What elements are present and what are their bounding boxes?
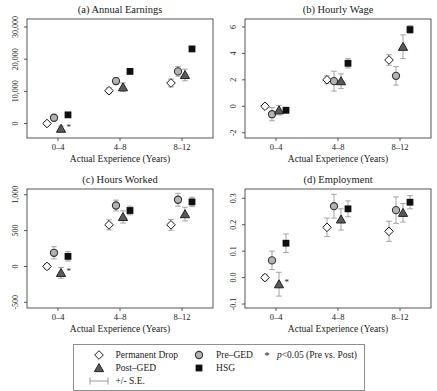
post-ged-data-point — [118, 213, 127, 221]
x-axis-tick-label: 8–12 — [174, 312, 191, 322]
x-axis-tick-label: 0–4 — [52, 142, 66, 152]
legend-item-post-ged: Post–GED — [88, 361, 179, 374]
triangle-marker-icon — [88, 362, 110, 374]
pre-ged-data-point — [330, 203, 337, 210]
legend-column-1: Permanent Drop Post–GED +/- S.E. — [88, 348, 179, 387]
legend-item-hsg: HSG — [188, 361, 253, 374]
legend-label: Permanent Drop — [116, 350, 179, 360]
x-axis-label: Actual Experience (Years) — [70, 154, 170, 165]
post-ged-data-point — [274, 106, 283, 114]
legend-label: Post–GED — [116, 363, 157, 373]
panel-hourly-wage: (b) Hourly Wage-202460–44–88–12Actual Ex… — [218, 2, 436, 170]
x-axis-tick-label: 4–8 — [332, 142, 345, 152]
x-axis-tick-label: 4–8 — [114, 312, 127, 322]
pre-ged-data-point — [50, 114, 57, 121]
y-axis-tick-label: 20,000 — [11, 48, 20, 70]
legend: Permanent Drop Post–GED +/- S.E. Pre–GED… — [73, 344, 365, 391]
y-axis-tick-label: 6 — [229, 25, 238, 29]
permanent-drop-data-point — [167, 221, 176, 230]
y-axis-tick-label: 2 — [229, 78, 238, 82]
chart-svg: (a) Annual Earnings010,00020,00030,0000–… — [0, 2, 218, 170]
permanent-drop-data-point — [323, 223, 332, 232]
panel-title: (c) Hours Worked — [82, 174, 158, 186]
hsg-data-point — [127, 207, 134, 214]
panel-title: (a) Annual Earnings — [78, 4, 163, 16]
pre-ged-data-point — [392, 207, 399, 214]
permanent-drop-data-point — [385, 227, 394, 236]
errorbar-marker — [90, 377, 108, 384]
y-axis-tick-label: 0.0 — [229, 273, 238, 283]
hsg-data-point — [189, 46, 196, 53]
legend-column-3: * p<0.05 (Pre vs. Post) — [263, 348, 357, 361]
x-axis-tick-label: 0–4 — [270, 312, 284, 322]
x-axis-tick-label: 0–4 — [270, 142, 284, 152]
hsg-data-point — [407, 199, 414, 206]
x-axis-label: Actual Experience (Years) — [70, 324, 170, 335]
hsg-data-point — [283, 107, 290, 114]
chart-svg: (b) Hourly Wage-202460–44–88–12Actual Ex… — [218, 2, 436, 170]
y-axis-tick-label: -2 — [229, 129, 238, 136]
y-axis-tick-label: 10,000 — [11, 80, 20, 102]
y-axis-tick-label: 0 — [229, 104, 238, 108]
post-ged-data-point — [336, 215, 345, 223]
chart-svg: (c) Hours Worked-50005001,0000–44–88–12A… — [0, 172, 218, 340]
post-ged-data-point — [56, 124, 65, 132]
permanent-drop-data-point — [385, 56, 394, 65]
square-marker — [196, 364, 203, 371]
post-ged-data-point — [118, 83, 127, 91]
post-ged-data-point — [56, 268, 65, 276]
legend-label: p<0.05 (Pre vs. Post) — [277, 350, 357, 360]
pre-ged-data-point — [50, 249, 57, 256]
y-axis-tick-label: 1,000 — [11, 186, 20, 204]
diamond-marker-icon — [88, 349, 110, 361]
pre-ged-data-point — [174, 196, 181, 203]
legend-item-significance: * p<0.05 (Pre vs. Post) — [263, 348, 357, 361]
permanent-drop-data-point — [43, 262, 52, 271]
permanent-drop-data-point — [105, 86, 114, 95]
significance-star: * — [67, 122, 72, 132]
y-axis-tick-label: 0.1 — [229, 246, 238, 256]
legend-item-se: +/- S.E. — [88, 374, 179, 387]
y-axis-tick-label: 30,000 — [11, 16, 20, 38]
panel-employment: (d) Employment-0.10.00.10.20.30–44–88–12… — [218, 172, 436, 340]
permanent-drop-data-point — [43, 119, 52, 128]
post-ged-data-point — [274, 280, 283, 288]
panel-title: (b) Hourly Wage — [303, 4, 374, 16]
hsg-data-point — [65, 253, 72, 260]
x-axis-tick-label: 8–12 — [392, 312, 409, 322]
legend-item-permanent-drop: Permanent Drop — [88, 348, 179, 361]
circle-marker — [195, 351, 202, 358]
pre-ged-data-point — [174, 68, 181, 75]
y-axis-tick-label: 0.2 — [229, 220, 238, 230]
y-axis-tick-label: 500 — [11, 225, 20, 237]
permanent-drop-data-point — [261, 273, 270, 282]
pre-ged-data-point — [112, 77, 119, 84]
legend-label: HSG — [216, 363, 235, 373]
pre-ged-data-point — [112, 202, 119, 209]
y-axis-tick-label: 4 — [229, 51, 238, 55]
pre-ged-data-point — [392, 72, 399, 79]
permanent-drop-data-point — [167, 79, 176, 88]
y-axis-tick-label: 0.3 — [229, 193, 238, 203]
square-marker-icon — [188, 362, 210, 374]
x-axis-tick-label: 0–4 — [52, 312, 66, 322]
y-axis-tick-label: 0 — [11, 264, 20, 268]
hsg-data-point — [65, 111, 72, 118]
chart-svg: (d) Employment-0.10.00.10.20.30–44–88–12… — [218, 172, 436, 340]
panel-grid: (a) Annual Earnings010,00020,00030,0000–… — [0, 2, 437, 340]
y-axis-tick-label: 0 — [11, 122, 20, 126]
permanent-drop-data-point — [323, 76, 332, 85]
permanent-drop-data-point — [105, 221, 114, 230]
diamond-marker — [94, 350, 103, 359]
x-axis-label: Actual Experience (Years) — [288, 154, 388, 165]
x-axis-label: Actual Experience (Years) — [288, 324, 388, 335]
hsg-data-point — [283, 240, 290, 247]
post-ged-data-point — [398, 42, 407, 50]
permanent-drop-data-point — [261, 102, 270, 111]
hsg-data-point — [127, 68, 134, 75]
x-axis-tick-label: 8–12 — [174, 142, 191, 152]
post-ged-data-point — [180, 210, 189, 218]
significance-star: * — [67, 266, 72, 276]
significance-star: * — [285, 277, 290, 287]
